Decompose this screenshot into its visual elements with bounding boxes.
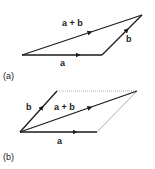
label-sum: a + b — [54, 102, 75, 112]
vector-addition-figure: a + b b a (a) b a + b a (b) — [0, 0, 155, 169]
dotted-edge-right — [97, 91, 137, 132]
diagram-a: a + b b a (a) — [3, 15, 142, 81]
label-a: a — [60, 58, 66, 68]
vector-sum — [20, 91, 137, 132]
label-a: a — [57, 136, 63, 146]
label-b: b — [26, 102, 32, 112]
label-sum: a + b — [62, 18, 83, 28]
label-b: b — [126, 34, 132, 44]
caption-a: (a) — [3, 71, 14, 81]
caption-b: (b) — [3, 152, 14, 162]
diagram-b: b a + b a (b) — [3, 91, 137, 162]
